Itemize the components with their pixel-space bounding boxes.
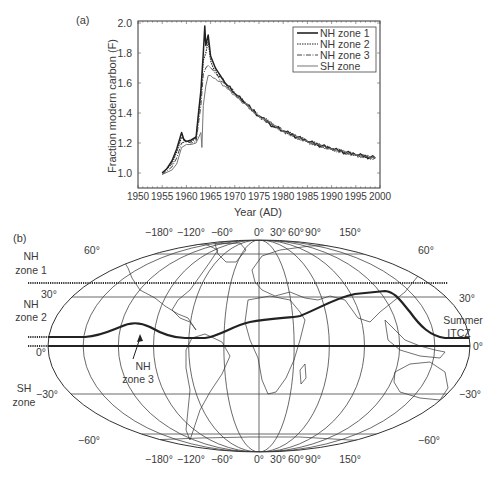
x-tick-label: 1955 [151, 191, 174, 202]
y-tick-label: 1.6 [117, 77, 132, 89]
sh-zone-label-line1: SH [17, 382, 32, 394]
panel-a-label: (a) [76, 14, 89, 26]
y-tick-label: 1.8 [117, 47, 132, 59]
x-axis-label: Year (AD) [234, 206, 282, 218]
panel-b: (b) [0, 226, 497, 465]
lon-label-bottom-0: 0° [254, 453, 264, 465]
nh-zone-1-label-line1: NH [23, 250, 38, 262]
y-tick-label: 1.4 [117, 107, 132, 119]
x-tick-label: 1985 [296, 191, 319, 202]
x-tick-label: 1950 [127, 191, 150, 202]
arrow-head-icon [137, 334, 143, 342]
x-tick-label: 1970 [224, 191, 247, 202]
x-tick-label: 1990 [320, 191, 343, 202]
lon-label-top-150: 150° [339, 226, 361, 238]
x-tick-label: 1995 [345, 191, 368, 202]
sh-zone-label-line2: zone [13, 396, 36, 408]
nh-zone-3-label-line1: NH [135, 360, 150, 372]
lon-label-bottom-90: 90° [305, 453, 321, 465]
series-line-sh-zone [162, 76, 375, 175]
coastlines [110, 243, 448, 446]
lon-label-bottom-60: 60° [288, 453, 304, 465]
y-axis-label: Fraction modern carbon (F) [106, 39, 118, 173]
itcz-label-line2: ITCZ [447, 327, 471, 339]
lat-label-right-minus60: −60° [418, 434, 440, 446]
lon-label-top-minus120: −120° [177, 226, 205, 238]
nh-zone-3-label-line2: zone 3 [122, 373, 154, 385]
panel-b-label: (b) [13, 232, 26, 244]
lon-label-bottom-minus180: −180° [145, 453, 173, 465]
parallel-grid [0, 254, 497, 434]
legend: NH zone 1 NH zone 2 NH zone 3 SH zone [293, 27, 376, 72]
x-tick-label: 2000 [369, 191, 392, 202]
lon-label-top-60: 60° [288, 226, 304, 238]
lon-label-top-90: 90° [305, 226, 321, 238]
lat-label-right-minus30: −30° [459, 388, 481, 400]
lon-label-bottom-minus120: −120° [177, 453, 205, 465]
x-tick-label: 1975 [248, 191, 271, 202]
x-tick-label: 1965 [199, 191, 222, 202]
y-tick-label: 1.2 [117, 137, 132, 149]
lon-label-top-minus60: −60° [211, 226, 233, 238]
lon-label-bottom-150: 150° [339, 453, 361, 465]
x-tick-label: 1980 [272, 191, 295, 202]
x-tick-label: 1960 [175, 191, 198, 202]
figure: (a) Fraction modern carbon (F) 1.01.21.4… [0, 0, 497, 478]
lat-label-left-0: 0° [36, 346, 46, 358]
lat-label-right-0: 0° [473, 340, 483, 352]
lat-label-right-60: 60° [418, 244, 434, 256]
lon-label-bottom-minus60: −60° [211, 453, 233, 465]
legend-label-sh-zone: SH zone [320, 60, 360, 72]
x-tick-labels: 1950195519601965197019751980198519901995… [127, 191, 392, 202]
nh-zone-2-label-line1: NH [23, 298, 38, 310]
lon-label-top-0: 0° [254, 226, 264, 238]
longitude-labels-top: −180° −120° −60° 0° 30° 60° 90° 150° [145, 226, 361, 238]
itcz-label-line1: Summer [443, 314, 483, 326]
lat-label-left-30: 30° [41, 288, 57, 300]
longitude-labels-bottom: −180° −120° −60° 0° 30° 60° 90° 150° [145, 453, 361, 465]
lat-label-right-30: 30° [459, 292, 475, 304]
y-tick-label: 2.0 [117, 17, 132, 29]
lat-label-left-minus60: −60° [78, 434, 100, 446]
panel-a: (a) Fraction modern carbon (F) 1.01.21.4… [76, 14, 392, 218]
lat-label-left-minus30: −30° [36, 388, 58, 400]
lon-label-top-30: 30° [270, 226, 286, 238]
y-tick-labels: 1.01.21.41.61.82.0 [117, 17, 132, 179]
series-line-nh-zone-3 [162, 65, 375, 175]
lat-label-left-60: 60° [84, 244, 100, 256]
y-tick-label: 1.0 [117, 167, 132, 179]
lon-label-bottom-30: 30° [270, 453, 286, 465]
nh-zone-1-label-line2: zone 1 [15, 264, 47, 276]
nh-zone-2-label-line2: zone 2 [15, 311, 47, 323]
lon-label-top-minus180: −180° [145, 226, 173, 238]
